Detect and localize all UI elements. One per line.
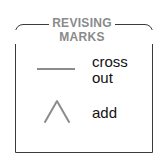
legend-title-line1: REVISING [49,16,115,30]
caret-icon [42,98,72,124]
legend-item-add: add [92,105,117,121]
legend-item-cross-out: cross out [92,54,142,86]
legend-title: REVISING MARKS [0,16,164,44]
legend-title-line2: MARKS [0,30,164,44]
horizontal-line-icon [37,68,75,70]
